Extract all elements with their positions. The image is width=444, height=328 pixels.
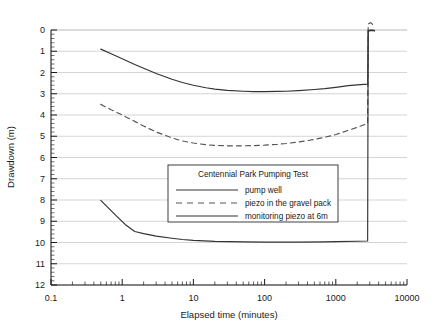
y-tick-label: 7: [40, 174, 45, 184]
y-tick-label: 5: [40, 131, 45, 141]
legend-title: Centennial Park Pumping Test: [198, 170, 309, 179]
x-axis-title: Elapsed time (minutes): [180, 309, 277, 320]
x-tick-label: 10: [188, 293, 198, 303]
y-tick-label: 1: [40, 46, 45, 56]
legend-label-monitoring-piezo: monitoring piezo at 6m: [245, 212, 328, 221]
y-tick-label: 11: [36, 259, 45, 269]
x-tick-label: 0.1: [45, 293, 58, 303]
x-tick-label: 1: [120, 293, 125, 303]
y-tick-label: 0: [40, 25, 45, 35]
y-tick-label: 8: [40, 195, 45, 205]
drawdown-chart: 0.1110100100010000 0123456789101112 Elap…: [0, 0, 444, 328]
chart-legend: Centennial Park Pumping Test pump well p…: [168, 165, 338, 222]
y-tick-label: 9: [40, 216, 45, 226]
y-axis-title: Drawdown (m): [5, 126, 16, 188]
y-tick-label: 6: [40, 153, 45, 163]
y-tick-label: 3: [40, 89, 45, 99]
legend-label-gravel-pack-piezo: piezo in the gravel pack: [245, 199, 332, 208]
legend-label-pump-well: pump well: [245, 186, 282, 195]
y-tick-label: 2: [40, 68, 45, 78]
y-tick-label: 12: [35, 280, 45, 290]
x-tick-label: 100: [257, 293, 272, 303]
x-tick-label: 10000: [394, 293, 419, 303]
chart-background: [0, 0, 444, 328]
x-tick-label: 1000: [326, 293, 346, 303]
chart-canvas: 0.1110100100010000 0123456789101112 Elap…: [0, 0, 444, 328]
y-tick-label: 10: [35, 238, 45, 248]
y-tick-label: 4: [40, 110, 45, 120]
